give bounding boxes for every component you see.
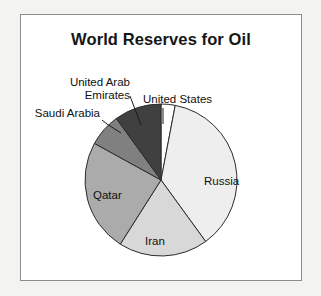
pie-label-uae-line2: Emirates	[40, 89, 130, 102]
pie-label-saudi-arabia: Saudi Arabia	[21, 107, 100, 120]
pie-label-qatar: Qatar	[93, 189, 122, 201]
pie-label-uae: United Arab Emirates	[40, 76, 130, 102]
pie-label-uae-line1: United Arab	[40, 76, 130, 89]
pie-label-united-states: United States	[143, 93, 212, 106]
chart-figure-frame: World Reserves for Oil Russia Iran Qatar…	[20, 14, 302, 281]
pie-label-russia: Russia	[204, 175, 239, 187]
pie-label-iran: Iran	[145, 235, 165, 247]
